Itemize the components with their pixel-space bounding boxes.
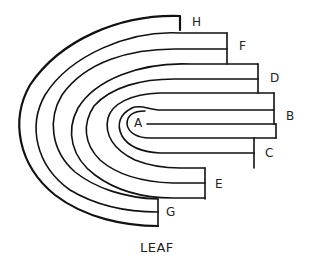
label-b: B	[286, 110, 294, 122]
layer-f-bottom	[72, 64, 258, 198]
label-c: C	[265, 147, 273, 159]
label-g: G	[166, 206, 175, 218]
label-h: H	[192, 16, 201, 28]
label-f: F	[239, 40, 246, 52]
label-d: D	[270, 72, 279, 84]
layer-d-bottom	[107, 93, 274, 168]
diagram-title: LEAF	[140, 240, 174, 255]
layer-h-outer	[19, 16, 180, 226]
layer-c-top	[119, 107, 274, 153]
label-e: E	[215, 178, 223, 190]
label-a: A	[134, 117, 142, 129]
layer-h-inner	[36, 33, 227, 212]
leaf-layers-drawing	[0, 0, 309, 266]
